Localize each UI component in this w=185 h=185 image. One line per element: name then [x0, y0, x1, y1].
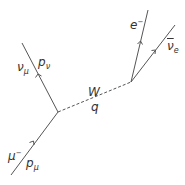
w-boson-label: W: [88, 86, 100, 98]
feynman-diagram: μ− pμ νμ pν W q e− νe: [0, 0, 185, 185]
muon-neutrino-momentum-label: pν: [38, 56, 50, 71]
muon-label: μ−: [8, 150, 22, 162]
electron-antineutrino-label: νe: [167, 40, 179, 55]
muon-neutrino-label: νμ: [17, 61, 29, 76]
muon-momentum-label: pμ: [26, 157, 39, 172]
muon-neutrino-line: [22, 43, 58, 112]
electron-label: e−: [130, 19, 143, 31]
muon-neutrino-arrow-icon: [36, 74, 42, 78]
w-momentum-label: q: [91, 101, 99, 113]
